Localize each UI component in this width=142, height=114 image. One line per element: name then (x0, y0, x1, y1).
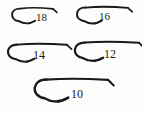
hook-eye-taper-18 (53, 9, 57, 13)
hook-shank-14 (17, 44, 67, 45)
hook-bend-18 (12, 9, 35, 24)
hook-size-label-12: 12 (104, 48, 116, 60)
hook-size-label-10: 10 (71, 88, 83, 100)
hook-size-chart: 1816141210 (0, 0, 142, 114)
hook-bend-14 (8, 45, 35, 62)
hook-shank-10 (46, 79, 108, 80)
hook-shank-16 (86, 7, 128, 8)
hook-shank-12 (85, 42, 139, 43)
hook-eye-taper-14 (67, 45, 72, 49)
hook-eye-taper-10 (108, 80, 114, 86)
hook-shank-18 (20, 8, 53, 9)
hook-eye-taper-16 (128, 8, 132, 12)
hook-bend-12 (75, 43, 103, 61)
hook-size-label-18: 18 (36, 12, 47, 23)
hook-size-label-14: 14 (33, 49, 45, 61)
hook-size-label-16: 16 (99, 11, 110, 22)
hook-eye-taper-12 (139, 43, 142, 48)
hook-bend-10 (35, 80, 69, 102)
